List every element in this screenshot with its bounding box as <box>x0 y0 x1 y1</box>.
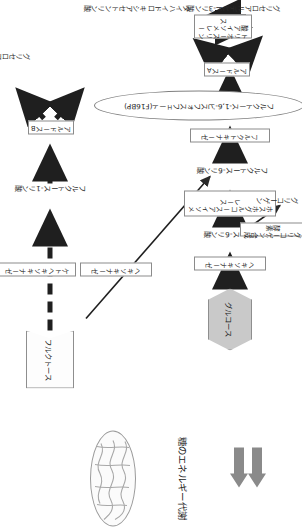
enzyme-fructokinase: フルクトキナーゼ <box>190 128 270 142</box>
enzyme-aldolase-a: アルドースA <box>204 62 250 76</box>
page-title: 糖のエネルギー代謝 <box>176 436 190 520</box>
metabolite-glucose: グルコース <box>208 288 252 350</box>
enzyme-aldolase-b: アルドースB <box>28 120 74 134</box>
enzyme-hexokinase-minor: ヘキソキナーゼ <box>80 262 152 276</box>
arrow-aldolaseA-to-g3p <box>236 40 258 62</box>
mitochondrion-icon <box>90 430 136 526</box>
flow-arrow-icon <box>226 445 266 511</box>
figure-canvas: 糖のエネルギー代謝 <box>0 0 302 527</box>
arrow-aldolaseB-to-glyceraldehyde <box>20 92 44 118</box>
metabolite-fructose-1-6-bisphosphate: フルクトース-1,6-ビスフォスフェート(F16BP) <box>94 90 302 120</box>
pathway-diagram: 糖のエネルギー代謝 <box>0 0 302 527</box>
metabolite-glyceraldehyde: グリセロアルデヒド <box>0 52 30 60</box>
metabolite-glycogen: グリコーゲン <box>255 196 298 204</box>
arrow-aldolaseB-to-dhap <box>56 92 80 118</box>
enzyme-ketohexokinase: ケトヘキソキナーゼ <box>0 262 76 276</box>
metabolite-dihydroxyacetone-phosphate: ダイハイドロキシアセトンリン酸 <box>84 4 191 12</box>
enzyme-glycogen-synthase: グリコーゲン合成酵素 <box>240 222 302 236</box>
metabolite-fructose-6-phosphate: フルクトース-6リン酸 <box>197 166 268 174</box>
enzyme-triose-phosphate-isomerase: トリオースリン酸アイソメレース <box>194 14 252 38</box>
metabolite-fructose-1-phosphate: フルクトース-1リン酸 <box>15 184 86 192</box>
metabolite-glyceraldehyde-3-phosphate: グリセロアルデヒド-3リン酸 <box>187 4 280 12</box>
enzyme-hexokinase: ヘキソキナーゼ <box>194 256 266 270</box>
arrow-aldolaseA-to-dhap <box>198 42 222 62</box>
metabolite-fructose: フルクトース <box>26 330 74 388</box>
